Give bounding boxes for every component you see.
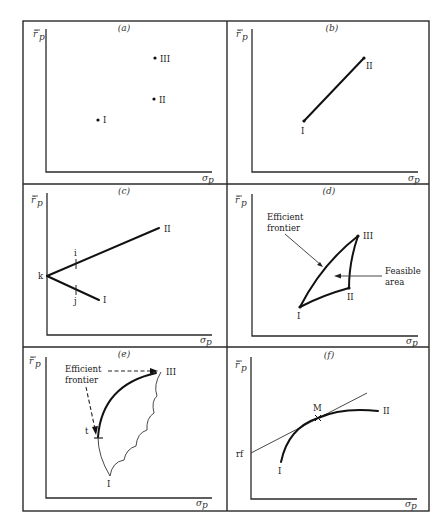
point-label: t — [85, 426, 89, 436]
pointer-to-t — [86, 387, 95, 429]
point-label: II — [347, 292, 354, 302]
point-I-marker — [302, 119, 305, 122]
x-axis-label: σ p — [406, 336, 418, 348]
panel-label: (e) — [118, 349, 131, 359]
capital-market-line — [251, 393, 367, 453]
x-axis-label: σ p — [408, 173, 420, 185]
svg-text:p: p — [37, 198, 43, 208]
point-label: II — [383, 406, 390, 416]
arrowhead-icon — [334, 274, 341, 279]
svg-text:p: p — [35, 359, 41, 369]
point-label: II — [164, 224, 171, 234]
svg-text:r̄: r̄ — [235, 195, 240, 205]
point-label: I — [297, 311, 300, 321]
curve-I-II — [300, 288, 349, 307]
y-axis-label: r̄ p — [236, 29, 248, 42]
panel-label: (c) — [118, 186, 131, 196]
svg-text:p: p — [412, 338, 418, 348]
point-label: III — [363, 231, 373, 241]
svg-text:r̄: r̄ — [29, 356, 34, 366]
point-II-marker — [152, 97, 155, 100]
point-I-marker — [96, 118, 99, 121]
point-label: II — [366, 61, 373, 71]
efficient-frontier-curve — [281, 410, 378, 462]
panel-a: (a) r̄ p σ p I II III — [33, 23, 214, 185]
svg-text:p: p — [241, 198, 247, 208]
y-axis-label: r̄ p — [31, 195, 43, 208]
svg-text:r̄: r̄ — [33, 29, 38, 39]
annotation-area: area — [385, 277, 404, 287]
axes — [252, 29, 418, 172]
point-label: k — [38, 271, 44, 281]
svg-text:p: p — [241, 363, 247, 373]
efficient-frontier-pointer — [285, 234, 321, 265]
segment-I-II — [304, 58, 364, 121]
point-label: I — [278, 466, 281, 476]
svg-text:p: p — [208, 175, 214, 185]
svg-text:r̄: r̄ — [236, 29, 241, 39]
svg-text:r̄: r̄ — [31, 195, 36, 205]
panel-label: (b) — [326, 23, 339, 33]
panel-b: (b) r̄ p σ p I II — [236, 23, 420, 185]
portfolio-diagrams-figure: (a) r̄ p σ p I II III (b) r̄ p σ p — [0, 0, 447, 530]
point-label: I — [103, 115, 106, 125]
point-III-marker — [356, 234, 359, 237]
svg-text:p: p — [242, 32, 248, 42]
point-II-marker — [347, 286, 350, 289]
curve-I-t — [98, 437, 110, 476]
y-axis-label: r̄ p — [33, 29, 45, 42]
axes — [47, 193, 212, 335]
svg-text:p: p — [411, 501, 417, 511]
point-label: I — [103, 295, 106, 305]
line-k-I — [47, 276, 99, 300]
point-II-marker — [362, 56, 365, 59]
panel-c: (c) r̄ p σ p k II I i j — [31, 186, 212, 347]
point-label: M — [313, 403, 322, 413]
point-label: III — [166, 367, 176, 377]
x-axis-label: σ p — [202, 173, 214, 185]
panel-label: (a) — [118, 23, 131, 33]
y-axis-label: r̄ p — [29, 356, 41, 369]
panel-d: (d) r̄ p σ p I II III Efficient frontier… — [235, 186, 421, 348]
curve-II-III — [349, 236, 358, 288]
point-label: I — [301, 126, 304, 136]
point-III-marker — [153, 56, 156, 59]
x-axis-label: σ p — [200, 335, 212, 347]
panel-label: (d) — [323, 186, 336, 196]
svg-text:r̄: r̄ — [235, 360, 240, 370]
x-axis-label: σ p — [196, 498, 208, 510]
svg-text:p: p — [206, 337, 212, 347]
annotation-efficient: Efficient — [65, 364, 102, 374]
annotation-frontier: frontier — [267, 223, 301, 233]
point-label: rf — [236, 449, 244, 459]
line-k-II — [47, 228, 159, 276]
annotation-feasible: Feasible — [385, 266, 421, 276]
point-I-marker — [298, 305, 301, 308]
panel-f: (f) r̄ p σ p rf M I II — [235, 350, 417, 511]
panel-e: (e) r̄ p σ p I t III Efficient frontier — [29, 349, 212, 510]
annotation-frontier: frontier — [65, 375, 99, 385]
axes — [251, 357, 417, 499]
y-axis-label: r̄ p — [235, 360, 247, 373]
x-axis-label: σ p — [405, 499, 417, 511]
svg-text:p: p — [39, 32, 45, 42]
axes — [46, 29, 212, 172]
svg-text:p: p — [202, 500, 208, 510]
point-label: i — [74, 248, 77, 258]
y-axis-label: r̄ p — [235, 195, 247, 208]
point-label: I — [107, 479, 110, 489]
svg-text:p: p — [414, 175, 420, 185]
panel-label: (f) — [324, 350, 335, 360]
arrowhead-icon — [92, 426, 98, 435]
point-label: II — [159, 95, 166, 105]
annotation-efficient: Efficient — [267, 212, 304, 222]
point-label: III — [160, 54, 170, 64]
panel-grid — [23, 21, 429, 511]
point-label: j — [73, 296, 77, 306]
scalloped-boundary — [110, 372, 161, 476]
